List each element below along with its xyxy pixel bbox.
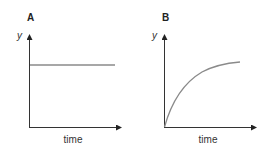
panel-b-y-axis-label: y — [151, 30, 158, 41]
panel-b-x-axis-label: time — [199, 134, 218, 145]
panel-a-y-axis-label: y — [16, 30, 23, 41]
panel-b: B y time — [151, 12, 256, 145]
panel-a-x-axis-label: time — [64, 134, 83, 145]
panel-a: A y time — [16, 12, 121, 145]
panel-a-label: A — [27, 12, 34, 23]
chart-canvas: A y time B y time — [0, 0, 271, 152]
panel-b-label: B — [162, 12, 169, 23]
figure: A y time B y time — [0, 0, 271, 152]
panel-b-saturating-curve — [165, 62, 241, 127]
